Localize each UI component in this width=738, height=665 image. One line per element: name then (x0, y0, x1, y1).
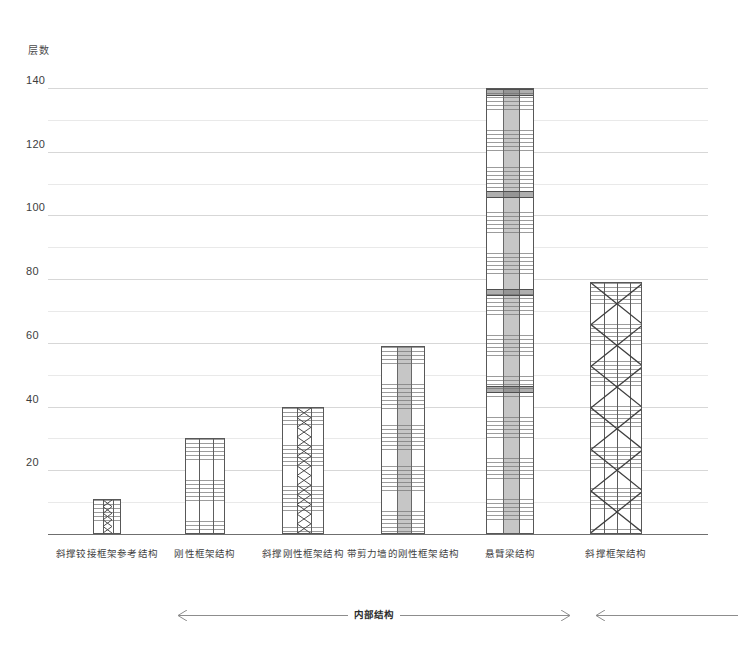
gridline-140 (48, 88, 708, 89)
plot-area: 20406080100120140 (48, 72, 708, 534)
y-axis-tick-60: 60 (26, 329, 66, 341)
bar-braced-rigid-frame (282, 407, 324, 534)
annotation-line-secondary (596, 615, 738, 616)
outrigger-band-3 (486, 289, 534, 296)
x-bracing (297, 408, 311, 533)
y-axis-tick-120: 120 (26, 138, 66, 150)
y-axis-tick-100: 100 (26, 201, 66, 213)
arrow-left-icon (178, 610, 187, 621)
outrigger-band-4 (486, 386, 534, 393)
arrow-right-icon (561, 610, 570, 621)
x-axis-label-3: 斜撑刚性框架结构 (262, 546, 344, 560)
gridline-110 (48, 184, 708, 185)
y-axis-tick-140: 140 (26, 74, 66, 86)
annotation-label-internal-structure: 内部结构 (348, 607, 400, 621)
x-axis-label-1: 斜撑铰接框架参考结构 (56, 546, 158, 560)
outrigger-band-2 (486, 191, 534, 198)
x-axis-label-6: 斜撑框架结构 (585, 546, 646, 560)
x-axis-label-2: 刚性框架结构 (174, 546, 235, 560)
arrow-left-icon-secondary (596, 610, 605, 621)
floor-count-bar-chart: 层数 20406080100120140 斜撑铰接框架参考结构刚性框架结构斜撑刚… (0, 0, 738, 665)
mega-bracing (591, 283, 642, 533)
bar-braced-hinged-frame (93, 499, 121, 534)
y-axis-tick-40: 40 (26, 393, 66, 405)
y-axis-title: 层数 (28, 42, 49, 57)
column-lines (186, 439, 224, 533)
y-axis-tick-20: 20 (26, 456, 66, 468)
cantilever-core (503, 89, 519, 533)
x-axis-label-5: 悬臂梁结构 (485, 546, 536, 560)
bar-outrigger-cantilever (486, 88, 534, 534)
x-bracing (103, 500, 112, 533)
gridline-100 (48, 215, 708, 216)
y-axis-tick-80: 80 (26, 265, 66, 277)
shear-wall-core (397, 347, 412, 533)
bar-rigid-frame-with-shear-wall (381, 346, 425, 534)
axis-baseline (48, 534, 708, 535)
gridline-120 (48, 152, 708, 153)
bar-braced-tube (590, 282, 642, 534)
outrigger-band-1 (486, 89, 534, 96)
gridline-90 (48, 247, 708, 248)
gridline-80 (48, 279, 708, 280)
x-axis-label-4: 带剪力墙的刚性框架结构 (347, 546, 459, 560)
gridline-130 (48, 120, 708, 121)
bar-rigid-frame (185, 438, 225, 534)
